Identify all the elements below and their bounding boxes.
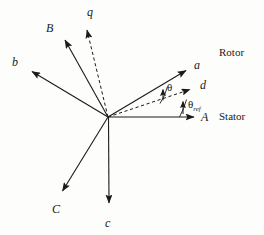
vector-label-b: b [12, 56, 18, 68]
vector-line-d [108, 90, 190, 118]
angle-label-theta-ref: θref [188, 99, 201, 113]
vector-label-A: A [201, 111, 208, 123]
vector-label-d: d [200, 79, 206, 91]
vector-label-a: a [194, 59, 200, 71]
stator-frame-label: Stator [219, 111, 245, 122]
angle-label-theta: θ [167, 82, 172, 93]
vector-label-C: C [52, 203, 60, 215]
vector-line-B [65, 40, 108, 117]
vector-label-q: q [87, 6, 93, 18]
vector-line-q [87, 30, 108, 117]
phasor-diagram: A a B b C c q d θ θref Rotor Stator [0, 0, 264, 235]
rotor-frame-label: Rotor [219, 47, 244, 58]
angle-label-theta-sym: θ [167, 81, 172, 93]
vector-line-C [63, 117, 109, 191]
vector-label-B: B [46, 22, 53, 34]
vector-line-b [32, 72, 108, 118]
angle-label-theta-ref-sub: ref [193, 105, 201, 113]
vector-line-a [108, 71, 186, 118]
vector-label-c: c [105, 217, 110, 229]
vector-line-c [109, 117, 110, 203]
